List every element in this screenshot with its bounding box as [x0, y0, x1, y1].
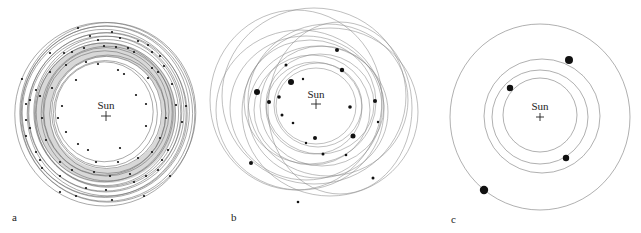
- body-dot: [115, 46, 117, 48]
- body-dot: [281, 114, 284, 117]
- body-dot: [175, 104, 177, 106]
- body-dot: [35, 151, 37, 153]
- body-dot: [77, 143, 79, 145]
- sun-label-a: Sun: [97, 99, 115, 111]
- body-dot: [129, 173, 131, 175]
- body-dot: [137, 40, 139, 42]
- orbit: [274, 63, 362, 147]
- body-dot: [145, 103, 147, 105]
- body-dot: [135, 94, 137, 96]
- panel-label-c: c: [451, 213, 456, 225]
- body-dot: [75, 195, 77, 197]
- body-dot: [161, 159, 163, 161]
- body-dot: [123, 73, 125, 75]
- body-dot: [111, 199, 113, 201]
- planet-dot: [480, 186, 488, 194]
- body-dot: [25, 119, 27, 121]
- body-dot: [351, 134, 356, 139]
- body-dot: [97, 63, 99, 65]
- orbit: [268, 22, 412, 194]
- body-dot: [348, 105, 352, 109]
- planet-formation-figure: Sun a Sun b Sun c: [0, 0, 641, 233]
- body-dot: [49, 52, 51, 54]
- body-dot: [165, 117, 167, 119]
- body-dot: [111, 31, 113, 33]
- body-dot: [75, 79, 77, 81]
- body-dot: [89, 35, 91, 37]
- body-dot: [267, 100, 271, 104]
- body-dot: [249, 161, 253, 165]
- body-dot: [65, 64, 67, 66]
- panel-label-b: b: [231, 211, 237, 223]
- body-dot: [63, 52, 65, 54]
- body-dot: [117, 69, 119, 71]
- body-dot: [29, 99, 31, 101]
- body-dot: [105, 189, 107, 191]
- body-dot: [45, 139, 47, 141]
- body-dot: [254, 89, 260, 95]
- body-dot: [147, 44, 149, 46]
- body-dot: [159, 55, 161, 57]
- body-dot: [71, 169, 73, 171]
- body-dot: [167, 149, 169, 151]
- orbit: [266, 62, 362, 154]
- body-dot: [41, 167, 43, 169]
- body-dot: [103, 45, 105, 47]
- body-dot: [322, 153, 325, 156]
- body-dot: [277, 95, 281, 99]
- sun-cross-b: [311, 99, 321, 109]
- body-dot: [119, 37, 121, 39]
- body-dot: [51, 87, 53, 89]
- body-dot: [97, 39, 99, 41]
- body-dot: [29, 127, 31, 129]
- body-dot: [377, 121, 379, 123]
- body-dot: [127, 47, 129, 49]
- body-dot: [39, 159, 41, 161]
- body-dot: [302, 78, 304, 80]
- panel-a-dense-disk: Sun a: [12, 22, 196, 223]
- body-dot: [335, 48, 339, 52]
- sun-label-c: Sun: [531, 100, 549, 112]
- body-dot: [345, 154, 348, 157]
- body-dot: [181, 121, 183, 123]
- body-dot: [305, 142, 307, 144]
- planet-dot: [563, 155, 569, 161]
- panel-c-final-planets: Sun c: [450, 24, 630, 225]
- sun-cross-c: [536, 113, 544, 121]
- body-dot: [41, 117, 43, 119]
- body-dot: [285, 64, 288, 67]
- body-dot: [59, 175, 61, 177]
- panel-b-bodies: [249, 48, 379, 203]
- body-dot: [163, 65, 165, 67]
- body-dot: [117, 161, 119, 163]
- body-dot: [373, 99, 377, 103]
- body-dot: [133, 181, 135, 183]
- body-dot: [59, 161, 61, 163]
- body-dot: [157, 169, 159, 171]
- body-dot: [157, 71, 159, 73]
- body-dot: [297, 201, 300, 204]
- planet-dot: [507, 85, 513, 91]
- body-dot: [313, 136, 317, 140]
- orbit: [484, 59, 600, 173]
- body-dot: [49, 71, 51, 73]
- body-dot: [147, 77, 149, 79]
- body-dot: [85, 187, 87, 189]
- body-dot: [71, 51, 73, 53]
- panel-label-a: a: [12, 211, 17, 223]
- body-dot: [151, 67, 153, 69]
- body-dot: [83, 47, 85, 49]
- body-dot: [145, 175, 147, 177]
- body-dot: [59, 191, 61, 193]
- body-dot: [145, 125, 147, 127]
- sun-label-b: Sun: [307, 88, 325, 100]
- body-dot: [119, 147, 121, 149]
- body-dot: [95, 161, 97, 163]
- panel-c-planets: [480, 56, 573, 194]
- orbit: [260, 46, 384, 166]
- body-dot: [87, 149, 89, 151]
- body-dot: [25, 103, 27, 105]
- body-dot: [292, 122, 295, 125]
- body-dot: [39, 95, 41, 97]
- planet-dot: [565, 56, 573, 64]
